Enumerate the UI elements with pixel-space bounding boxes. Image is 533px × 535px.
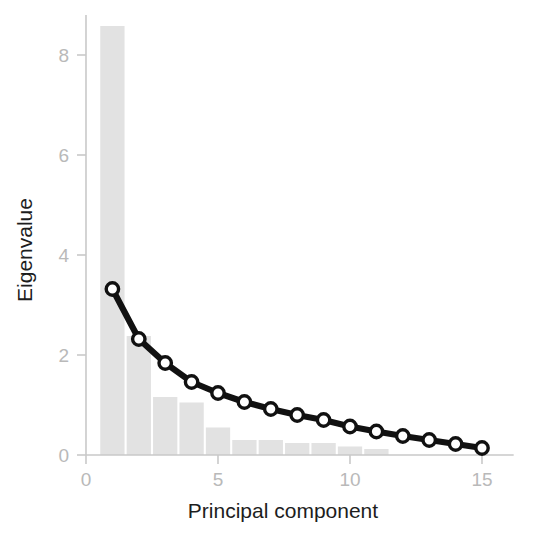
- data-point-pc-12: [397, 430, 409, 442]
- bar-pc-10: [338, 447, 362, 456]
- x-axis-ticks: 051015: [81, 455, 493, 490]
- bar-pc-6: [232, 440, 256, 455]
- data-point-pc-15: [476, 442, 488, 454]
- bar-pc-2: [127, 336, 151, 455]
- data-point-pc-2: [133, 333, 145, 345]
- bar-pc-1: [100, 26, 124, 455]
- x-tick-label-5: 5: [213, 469, 224, 490]
- y-tick-label-0: 0: [58, 445, 69, 466]
- scree-plot-figure: 02468 051015 Eigenvalue Principal compon…: [0, 0, 533, 535]
- data-point-pc-6: [238, 396, 250, 408]
- data-point-pc-14: [449, 438, 461, 450]
- data-point-pc-5: [212, 387, 224, 399]
- data-point-pc-1: [106, 283, 118, 295]
- data-point-pc-10: [344, 420, 356, 432]
- data-point-pc-9: [317, 414, 329, 426]
- bar-pc-4: [179, 403, 203, 456]
- bar-pc-11: [364, 449, 388, 455]
- x-tick-label-15: 15: [471, 469, 492, 490]
- data-point-pc-11: [370, 425, 382, 437]
- y-tick-label-2: 2: [58, 345, 69, 366]
- y-tick-label-6: 6: [58, 145, 69, 166]
- y-tick-label-8: 8: [58, 45, 69, 66]
- x-tick-label-0: 0: [81, 469, 92, 490]
- x-tick-label-10: 10: [339, 469, 360, 490]
- bar-pc-5: [206, 428, 230, 456]
- data-point-pc-3: [159, 357, 171, 369]
- bar-pc-9: [311, 443, 335, 455]
- bar-pc-7: [259, 440, 283, 455]
- y-axis-title: Eigenvalue: [13, 198, 36, 302]
- bar-series: [100, 26, 388, 455]
- bar-pc-8: [285, 443, 309, 455]
- data-point-pc-8: [291, 409, 303, 421]
- data-point-pc-7: [265, 403, 277, 415]
- data-point-pc-4: [185, 376, 197, 388]
- bar-pc-3: [153, 397, 177, 455]
- chart-canvas: 02468 051015 Eigenvalue Principal compon…: [0, 0, 533, 535]
- x-axis-title: Principal component: [188, 499, 378, 522]
- y-axis-ticks: 02468: [58, 45, 86, 466]
- data-point-pc-13: [423, 434, 435, 446]
- y-tick-label-4: 4: [58, 245, 69, 266]
